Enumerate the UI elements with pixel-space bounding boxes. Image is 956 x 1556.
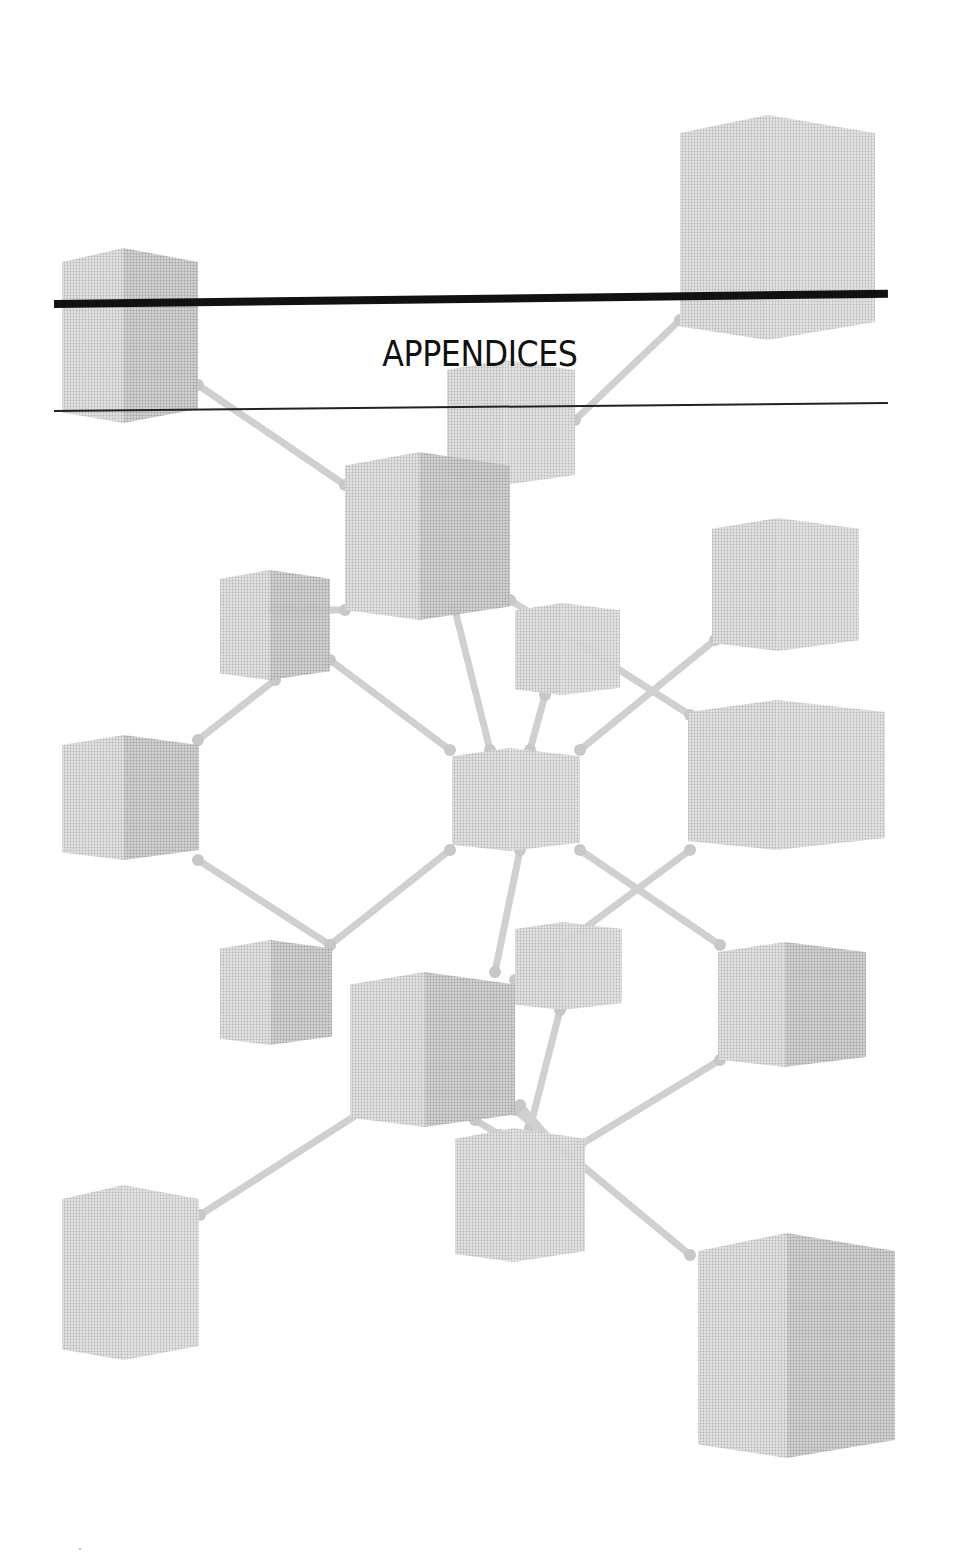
joint-node: [684, 1249, 696, 1261]
joint-node: [489, 966, 501, 978]
connector-rod: [530, 695, 545, 750]
page-title-text: APPENDICES: [382, 333, 577, 374]
joint-node: [444, 744, 456, 756]
connector-rod: [455, 610, 490, 750]
connector-rod: [198, 860, 330, 945]
joint-node: [444, 844, 456, 856]
connector-rod: [198, 680, 275, 740]
joint-node: [574, 844, 586, 856]
cube: [680, 115, 875, 340]
cube: [698, 1233, 895, 1458]
cube: [515, 603, 620, 695]
cube: [62, 735, 199, 860]
cube: [718, 942, 866, 1067]
connector-rod: [330, 850, 450, 945]
joint-node: [684, 844, 696, 856]
joint-node: [714, 939, 726, 951]
scan-speck: [79, 1548, 81, 1550]
cube: [345, 452, 510, 620]
cubes: [62, 115, 895, 1458]
joint-node: [192, 734, 204, 746]
connector-rod: [530, 1010, 560, 1128]
cube: [62, 1185, 199, 1360]
cube: [455, 1128, 585, 1262]
cube: [515, 922, 622, 1010]
cube: [452, 748, 580, 851]
cube: [712, 518, 859, 651]
cube: [688, 700, 885, 850]
joint-node: [514, 1099, 526, 1111]
cube: [220, 940, 332, 1045]
connector-rod: [580, 1060, 720, 1145]
cube-lattice-illustration: [0, 0, 956, 1556]
cube: [350, 972, 515, 1127]
connector-rod: [198, 385, 345, 485]
connector-rod: [330, 660, 450, 750]
cube: [220, 570, 330, 680]
joint-node: [192, 854, 204, 866]
page-title: APPENDICES: [0, 333, 956, 374]
joint-node: [574, 744, 586, 756]
